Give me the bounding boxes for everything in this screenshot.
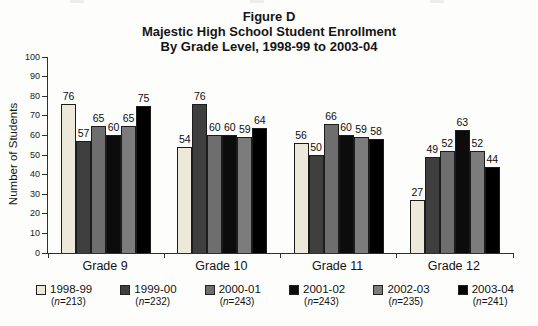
x-tick-mark-4 xyxy=(513,253,514,258)
legend-text-2000-01: 2000-01(n=243) xyxy=(219,283,261,308)
chart-title: Figure D Majestic High School Student En… xyxy=(0,9,538,54)
bar-value-label: 27 xyxy=(412,187,424,198)
legend-n-label: (n=243) xyxy=(219,296,261,308)
legend-swatch-2001-02 xyxy=(289,285,299,295)
x-axis-label-grade-12: Grade 12 xyxy=(396,259,512,273)
y-tick-mark-50 xyxy=(42,155,47,156)
legend-swatch-2002-03 xyxy=(373,285,383,295)
x-tick-mark-1 xyxy=(164,253,165,258)
legend-swatch-1998-99 xyxy=(36,285,46,295)
y-tick-label-40: 40 xyxy=(14,169,40,180)
legend-swatch-1999-00 xyxy=(120,285,130,295)
bar-2001-02-Grade 11 xyxy=(339,135,354,253)
legend-n-label: (n=213) xyxy=(50,296,92,308)
barwrap-2003-04-Grade 9: 75 xyxy=(136,93,151,253)
x-axis-label-grade-11: Grade 11 xyxy=(280,259,396,273)
barwrap-1999-00-Grade 12: 49 xyxy=(425,144,440,253)
bar-group-grade-11: 565066605958 xyxy=(281,57,397,253)
legend-item-1998-99: 1998-99(n=213) xyxy=(36,283,92,308)
legend-text-2003-04: 2003-04(n=241) xyxy=(472,283,514,308)
y-tick-mark-30 xyxy=(42,194,47,195)
bar-2000-01-Grade 9 xyxy=(91,126,106,253)
y-tick-mark-80 xyxy=(42,96,47,97)
bar-value-label: 52 xyxy=(472,138,484,149)
legend-text-1998-99: 1998-99(n=213) xyxy=(50,283,92,308)
y-tick-mark-70 xyxy=(42,115,47,116)
legend-year-label: 2002-03 xyxy=(387,283,429,296)
legend-text-2001-02: 2001-02(n=243) xyxy=(303,283,345,308)
barwrap-2000-01-Grade 12: 52 xyxy=(440,138,455,253)
legend-n-label: (n=243) xyxy=(303,296,345,308)
legend: 1998-99(n=213)1999-00(n=232)2000-01(n=24… xyxy=(36,283,514,308)
barwrap-1998-99-Grade 10: 54 xyxy=(177,134,192,253)
y-tick-mark-20 xyxy=(42,213,47,214)
bar-2003-04-Grade 9 xyxy=(136,106,151,253)
bar-value-label: 56 xyxy=(295,130,307,141)
barwrap-2003-04-Grade 11: 58 xyxy=(369,126,384,253)
legend-item-2003-04: 2003-04(n=241) xyxy=(458,283,514,308)
x-axis-label-grade-10: Grade 10 xyxy=(163,259,279,273)
title-line-range: By Grade Level, 1998-99 to 2003-04 xyxy=(0,39,538,54)
bar-1999-00-Grade 10 xyxy=(192,104,207,253)
x-axis-label-grade-9: Grade 9 xyxy=(47,259,163,273)
y-tick-label-80: 80 xyxy=(14,91,40,102)
barwrap-2001-02-Grade 9: 60 xyxy=(106,122,121,253)
bar-2003-04-Grade 10 xyxy=(252,128,267,253)
bar-value-label: 65 xyxy=(93,113,105,124)
bar-value-label: 60 xyxy=(224,122,236,133)
bar-value-label: 52 xyxy=(442,138,454,149)
bar-1999-00-Grade 11 xyxy=(309,155,324,253)
x-tick-mark-2 xyxy=(280,253,281,258)
bar-2002-03-Grade 11 xyxy=(354,137,369,253)
legend-text-2002-03: 2002-03(n=235) xyxy=(387,283,429,308)
barwrap-2000-01-Grade 11: 66 xyxy=(324,111,339,253)
barwrap-1999-00-Grade 11: 50 xyxy=(309,142,324,253)
legend-text-1999-00: 1999-00(n=232) xyxy=(134,283,176,308)
bar-value-label: 59 xyxy=(355,124,367,135)
bar-2002-03-Grade 9 xyxy=(121,126,136,253)
bar-value-label: 49 xyxy=(427,144,439,155)
x-tick-mark-0 xyxy=(48,253,49,258)
bar-1998-99-Grade 10 xyxy=(177,147,192,253)
y-tick-label-100: 100 xyxy=(14,52,40,63)
legend-item-2000-01: 2000-01(n=243) xyxy=(205,283,261,308)
bar-2000-01-Grade 11 xyxy=(324,124,339,253)
barwrap-1998-99-Grade 9: 76 xyxy=(61,91,76,253)
y-tick-mark-0 xyxy=(42,253,47,254)
barwrap-2001-02-Grade 11: 60 xyxy=(339,122,354,253)
x-tick-mark-3 xyxy=(396,253,397,258)
legend-n-label: (n=235) xyxy=(387,296,429,308)
barwrap-2002-03-Grade 9: 65 xyxy=(121,113,136,253)
bar-value-label: 50 xyxy=(310,142,322,153)
scan-artifact xyxy=(0,0,538,3)
y-tick-label-20: 20 xyxy=(14,208,40,219)
barwrap-2002-03-Grade 11: 59 xyxy=(354,124,369,253)
bar-2001-02-Grade 12 xyxy=(455,130,470,253)
legend-year-label: 2000-01 xyxy=(219,283,261,296)
bar-value-label: 60 xyxy=(108,122,120,133)
bar-value-label: 60 xyxy=(340,122,352,133)
bar-2003-04-Grade 12 xyxy=(485,167,500,253)
y-tick-label-90: 90 xyxy=(14,71,40,82)
y-tick-mark-90 xyxy=(42,76,47,77)
legend-n-label: (n=232) xyxy=(134,296,176,308)
y-tick-mark-100 xyxy=(42,57,47,58)
bar-2002-03-Grade 10 xyxy=(237,137,252,253)
title-line-figure: Figure D xyxy=(0,9,538,24)
legend-item-2002-03: 2002-03(n=235) xyxy=(373,283,429,308)
bar-2003-04-Grade 11 xyxy=(369,139,384,253)
legend-year-label: 1999-00 xyxy=(134,283,176,296)
bar-2000-01-Grade 12 xyxy=(440,151,455,253)
barwrap-2000-01-Grade 10: 60 xyxy=(207,122,222,253)
bar-value-label: 57 xyxy=(78,128,90,139)
barwrap-1998-99-Grade 12: 27 xyxy=(410,187,425,253)
barwrap-2002-03-Grade 12: 52 xyxy=(470,138,485,253)
y-tick-label-50: 50 xyxy=(14,150,40,161)
bar-group-grade-9: 765765606575 xyxy=(48,57,164,253)
bar-2001-02-Grade 9 xyxy=(106,135,121,253)
y-tick-label-30: 30 xyxy=(14,189,40,200)
bar-value-label: 59 xyxy=(239,124,251,135)
legend-year-label: 2001-02 xyxy=(303,283,345,296)
bar-group-grade-10: 547660605964 xyxy=(164,57,280,253)
bar-value-label: 65 xyxy=(123,113,135,124)
